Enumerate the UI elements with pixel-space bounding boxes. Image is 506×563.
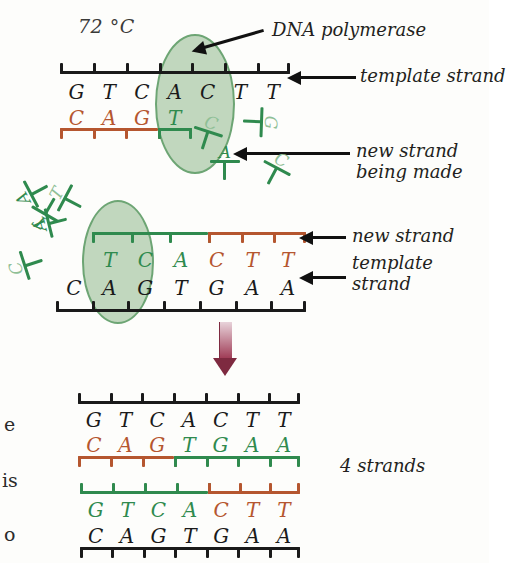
edge-fragment-1: e <box>4 414 15 435</box>
new-strand-label-middle: new strand <box>352 226 454 246</box>
new-strand-being-made-arrow <box>246 152 350 155</box>
new-strand-backbone-top <box>158 128 192 140</box>
duplex2-bottom-backbone <box>80 547 300 559</box>
template-backbone-middle <box>56 300 306 312</box>
free-nucleotide-label: G <box>260 105 281 140</box>
duplex2-bottom-bases: C A G T G A A <box>80 526 300 546</box>
new-strand-bases-middle: T C A C T T <box>92 250 306 270</box>
free-nucleotide-label: A <box>208 142 242 162</box>
duplex2-top-primer-backbone <box>208 482 300 494</box>
edge-fragment-2: is <box>2 470 18 491</box>
new-strand-arrow-middle <box>312 236 346 239</box>
new-strand-being-made-label: new strand being made <box>356 140 463 182</box>
duplex1-bottom-new-backbone <box>174 456 300 468</box>
four-strands-label: 4 strands <box>340 456 425 476</box>
dna-polymerase-label: DNA polymerase <box>272 20 426 40</box>
template-bases-top: G T C A C T T <box>60 82 290 102</box>
template-strand-arrow-top <box>300 76 356 79</box>
new-strand-backbone-middle <box>92 232 208 244</box>
template-strand-arrow-middle <box>312 276 346 279</box>
dna-polymerase-arrow <box>204 29 264 49</box>
free-nucleotide-a-6: A <box>208 152 242 180</box>
template-strand-label-middle: template strand <box>352 252 433 294</box>
transition-arrow <box>213 322 237 378</box>
temperature-label: 72 °C <box>78 16 135 37</box>
duplex2-top-new-backbone <box>80 482 208 494</box>
template-bases-middle: C A G T G A A <box>56 278 306 298</box>
template-backbone-top <box>60 62 290 74</box>
new-strand-primer-backbone-middle <box>208 232 306 244</box>
duplex1-top-bases: G T C A C T T <box>78 410 300 430</box>
duplex2-top-bases: G T C A C T T <box>80 500 300 520</box>
primer-backbone-top <box>60 128 158 140</box>
template-strand-label-top: template strand <box>360 66 506 86</box>
duplex1-bottom-bases: C A G T G A A <box>78 435 300 455</box>
free-nucleotide-c-4: C <box>10 244 47 285</box>
new-strand-bases-top: C A G T <box>60 108 192 128</box>
duplex1-bottom-primer-backbone <box>78 456 174 468</box>
duplex1-top-backbone <box>78 392 300 404</box>
free-nucleotide-c-7: C <box>253 152 296 193</box>
free-nucleotide-g-5: G <box>242 105 271 140</box>
edge-fragment-3: o <box>4 524 15 545</box>
